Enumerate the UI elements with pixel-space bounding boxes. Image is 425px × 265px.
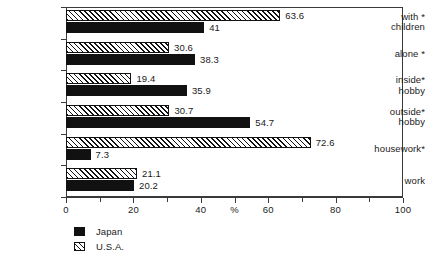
bar-value-japan-inside-hobby: 35.9 bbox=[192, 85, 211, 96]
x-tick-label: 80 bbox=[330, 204, 341, 215]
y-tick bbox=[61, 102, 67, 103]
y-category-housework: housework* bbox=[361, 144, 425, 155]
bar-value-usa-housework: 72.6 bbox=[316, 137, 335, 148]
bar-japan-housework bbox=[66, 149, 91, 160]
bar-group-with-children: 63.641 bbox=[66, 7, 403, 39]
x-tick bbox=[133, 198, 134, 203]
legend-swatch-usa-icon bbox=[74, 242, 85, 251]
x-tick bbox=[268, 198, 269, 203]
bar-chart: 63.641with *children30.638.3alone *19.43… bbox=[0, 0, 425, 265]
x-tick bbox=[100, 198, 101, 202]
bar-japan-work bbox=[66, 180, 134, 191]
x-tick-label: 40 bbox=[195, 204, 206, 215]
bar-value-usa-work: 21.1 bbox=[142, 168, 161, 179]
bar-group-inside-hobby: 19.435.9 bbox=[66, 70, 403, 102]
bar-usa-inside-hobby bbox=[66, 73, 131, 84]
chart-legend: Japan U.S.A. bbox=[74, 225, 124, 255]
y-tick bbox=[61, 134, 67, 135]
y-category-work: work bbox=[361, 176, 425, 187]
x-tick bbox=[66, 198, 67, 203]
legend-label-usa: U.S.A. bbox=[96, 240, 124, 253]
x-tick bbox=[235, 198, 236, 203]
x-tick-label: 20 bbox=[128, 204, 139, 215]
bar-group-alone: 30.638.3 bbox=[66, 39, 403, 71]
legend-swatch-japan-icon bbox=[74, 227, 85, 236]
y-category-label: work bbox=[361, 176, 425, 187]
x-tick-label: 60 bbox=[263, 204, 274, 215]
x-tick bbox=[336, 198, 337, 203]
bar-japan-inside-hobby bbox=[66, 85, 187, 96]
bar-usa-housework bbox=[66, 137, 311, 148]
legend-item-usa: U.S.A. bbox=[74, 240, 124, 253]
x-tick bbox=[201, 198, 202, 203]
y-category-outside-hobby: outside*hobby bbox=[361, 107, 425, 128]
bar-group-outside-hobby: 30.754.7 bbox=[66, 102, 403, 134]
legend-label-japan: Japan bbox=[96, 225, 122, 238]
y-tick bbox=[61, 165, 67, 166]
bar-value-japan-housework: 7.3 bbox=[96, 149, 110, 160]
y-category-label-line2: children bbox=[361, 22, 425, 33]
legend-item-japan: Japan bbox=[74, 225, 124, 238]
bar-value-usa-with-children: 63.6 bbox=[285, 10, 304, 21]
y-category-label: housework* bbox=[361, 144, 425, 155]
bar-value-usa-inside-hobby: 19.4 bbox=[136, 73, 155, 84]
y-category-label-line2: hobby bbox=[361, 117, 425, 128]
y-tick bbox=[61, 70, 67, 71]
x-tick-label: 0 bbox=[63, 204, 68, 215]
bar-japan-outside-hobby bbox=[66, 117, 250, 128]
y-tick bbox=[61, 39, 67, 40]
y-category-label: alone * bbox=[361, 49, 425, 60]
x-tick-label: 100 bbox=[395, 204, 411, 215]
y-category-with-children: with *children bbox=[361, 12, 425, 33]
x-tick bbox=[302, 198, 303, 202]
bar-usa-work bbox=[66, 168, 137, 179]
bar-usa-outside-hobby bbox=[66, 105, 169, 116]
bar-usa-with-children bbox=[66, 10, 280, 21]
bar-value-japan-with-children: 41 bbox=[209, 22, 220, 33]
bar-japan-alone bbox=[66, 54, 195, 65]
x-axis-unit-label: % bbox=[230, 204, 239, 215]
x-tick bbox=[403, 198, 404, 203]
bar-japan-with-children bbox=[66, 22, 204, 33]
bar-value-usa-alone: 30.6 bbox=[174, 42, 193, 53]
bar-usa-alone bbox=[66, 42, 169, 53]
bar-value-japan-work: 20.2 bbox=[139, 180, 158, 191]
bar-value-japan-outside-hobby: 54.7 bbox=[255, 117, 274, 128]
bar-value-usa-outside-hobby: 30.7 bbox=[174, 105, 193, 116]
y-tick bbox=[61, 7, 67, 8]
y-category-alone: alone * bbox=[361, 49, 425, 60]
bar-group-work: 21.120.2 bbox=[66, 165, 403, 197]
bar-value-japan-alone: 38.3 bbox=[200, 54, 219, 65]
y-category-inside-hobby: inside*hobby bbox=[361, 75, 425, 96]
bar-group-housework: 72.67.3 bbox=[66, 134, 403, 166]
x-tick bbox=[369, 198, 370, 202]
y-category-label-line2: hobby bbox=[361, 86, 425, 97]
x-tick bbox=[167, 198, 168, 202]
